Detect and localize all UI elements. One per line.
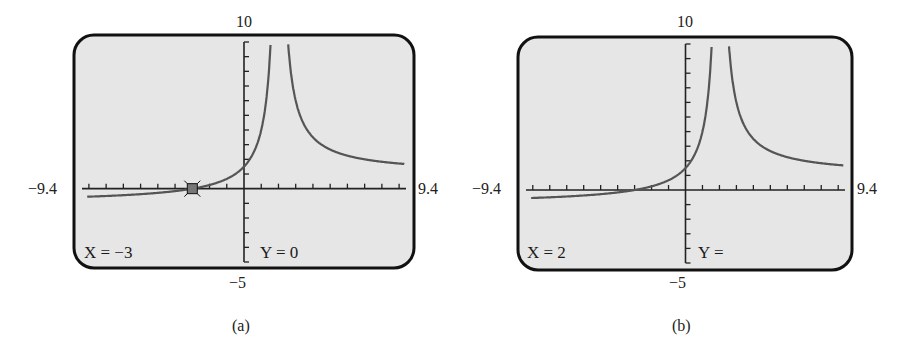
caption-a: (a)	[232, 318, 250, 334]
x-readout: X = 2	[527, 244, 566, 261]
graph-panel-a: 10 −9.4 9.4 −5 X = −3 Y = 0 (a)	[0, 0, 451, 358]
calculator-screen-b	[451, 0, 902, 358]
xmin-label: −9.4	[472, 181, 501, 197]
calculator-screen-a	[0, 0, 451, 358]
ymax-label: 10	[677, 14, 693, 30]
ymin-label: −5	[669, 275, 686, 291]
ymin-label: −5	[229, 275, 246, 291]
xmax-label: 9.4	[418, 181, 438, 197]
xmax-label: 9.4	[857, 181, 877, 197]
caption-b: (b)	[672, 318, 691, 334]
ymax-label: 10	[236, 14, 252, 30]
y-readout: Y = 0	[260, 244, 298, 261]
xmin-label: −9.4	[28, 181, 57, 197]
graph-panel-b: 10 −9.4 9.4 −5 X = 2 Y = (b)	[451, 0, 902, 358]
trace-cursor-icon	[187, 184, 197, 194]
y-readout: Y =	[698, 244, 723, 261]
x-readout: X = −3	[84, 244, 132, 261]
